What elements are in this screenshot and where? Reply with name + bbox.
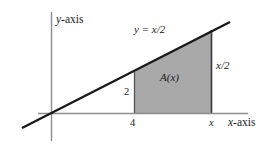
right-height-label: x/2 xyxy=(216,60,229,71)
function-equation-label: y = x/2 xyxy=(134,24,165,35)
y-axis-label-rest: -axis xyxy=(61,13,83,25)
x-axis-label-rest: -axis xyxy=(233,116,255,128)
x-tick-label-left: 4 xyxy=(130,118,135,129)
x-tick-label-right: x xyxy=(209,118,214,129)
x-axis-label: x-axis xyxy=(228,117,255,129)
left-height-label: 2 xyxy=(124,87,129,98)
y-axis-label: y-axis xyxy=(56,14,83,26)
area-function-label: A(x) xyxy=(160,72,179,83)
figure-canvas: y-axis y = x/2 A(x) x/2 2 4 x x-axis xyxy=(0,0,278,155)
